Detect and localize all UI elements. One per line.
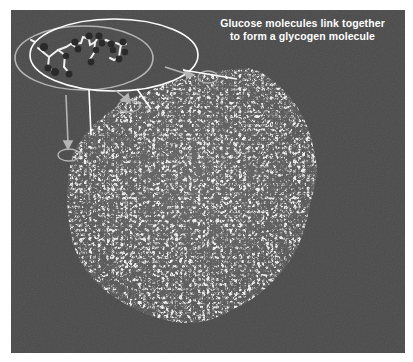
figure-graphic [11, 10, 405, 353]
caption-line-2: to form a glycogen molecule [200, 30, 405, 43]
glycogen-figure: Glucose molecules link together to form … [11, 10, 405, 353]
figure-caption: Glucose molecules link together to form … [200, 17, 405, 43]
caption-line-1: Glucose molecules link together [200, 17, 405, 30]
